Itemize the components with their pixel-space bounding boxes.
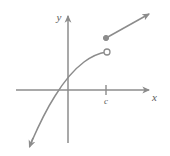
open-circle-marker [104, 49, 110, 55]
tick-c: c [104, 85, 108, 106]
right-branch-ray [106, 14, 149, 38]
ray-path [106, 14, 149, 38]
figure-root: x y c [0, 0, 170, 156]
curve-arrow-lower-left [30, 138, 34, 147]
x-axis-label: x [151, 91, 157, 103]
y-axis-label: y [56, 11, 62, 23]
tick-label-c: c [104, 96, 108, 106]
x-axis: x [16, 90, 157, 103]
graph-canvas: x y c [0, 0, 170, 156]
y-axis: y [56, 11, 68, 143]
filled-dot-marker [103, 35, 108, 40]
